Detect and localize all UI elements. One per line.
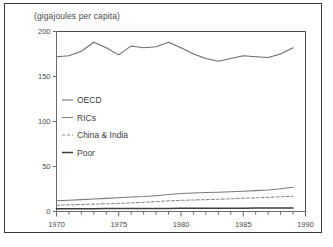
legend-label: China & India xyxy=(77,130,128,140)
legend-label: OECD xyxy=(77,95,102,105)
x-tick-label: 1970 xyxy=(48,220,65,229)
legend-label: RICs xyxy=(77,113,96,123)
chart-plot-area: 05010015020019701975198019851990OECDRICs… xyxy=(0,0,333,247)
y-tick-label: 50 xyxy=(42,162,50,171)
figure-caption-clipped xyxy=(6,239,327,247)
series-line-rics xyxy=(57,187,294,201)
series-line-oecd xyxy=(57,42,294,61)
series-line-china-india xyxy=(57,196,294,205)
line-chart-svg: 05010015020019701975198019851990OECDRICs… xyxy=(0,0,333,247)
series-line-poor xyxy=(57,208,294,209)
x-tick-label: 1980 xyxy=(173,220,190,229)
x-tick-label: 1985 xyxy=(235,220,252,229)
y-tick-label: 0 xyxy=(46,207,50,216)
y-tick-label: 200 xyxy=(38,27,51,36)
y-tick-label: 150 xyxy=(38,72,51,81)
legend-label: Poor xyxy=(77,148,95,158)
y-tick-label: 100 xyxy=(38,117,51,126)
x-tick-label: 1990 xyxy=(297,220,314,229)
x-tick-label: 1975 xyxy=(110,220,127,229)
